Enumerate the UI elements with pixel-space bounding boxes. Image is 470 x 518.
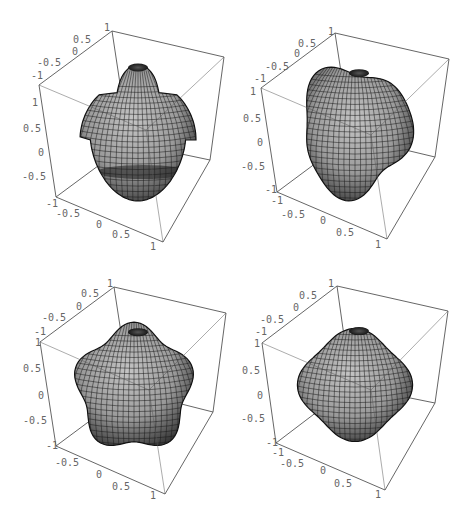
surface-1: [285, 60, 424, 201]
z-tick-label: 0: [38, 147, 44, 158]
top-tick-label: -0.5: [265, 61, 289, 72]
top-tick-label: 0: [76, 301, 82, 312]
bottom-tick-label: -0.5: [56, 208, 80, 219]
top-tick-label: 0: [293, 302, 299, 313]
z-tick-label: 0.5: [23, 123, 41, 134]
bottom-tick-label: 1: [375, 239, 381, 250]
top-tick-label: -0.5: [37, 57, 61, 68]
z-tick-label: 0.5: [242, 365, 260, 376]
z-tick-label: 0.5: [243, 113, 261, 124]
bottom-tick-label: -1: [271, 195, 283, 206]
z-tick-label: -0.5: [241, 413, 265, 424]
bottom-tick-label: 1: [150, 490, 156, 501]
z-tick-label: 1: [254, 338, 260, 349]
z-tick-label: -0.5: [23, 415, 47, 426]
surface-0: [68, 64, 207, 210]
top-tick-label: 0.5: [73, 34, 91, 45]
bottom-tick-label: 0.5: [112, 229, 130, 240]
bottom-tick-label: 0: [96, 219, 102, 230]
top-tick-label: 0.5: [298, 38, 316, 49]
bottom-tick-label: 0: [96, 469, 102, 480]
top-tick-label: 0.5: [299, 290, 317, 301]
top-tick-label: 1: [107, 278, 113, 289]
top-tick-label: 1: [328, 278, 334, 289]
top-dimple: [128, 64, 148, 72]
top-dimple: [349, 69, 369, 77]
bottom-tick-label: 0.5: [336, 227, 354, 238]
z-tick-label: 1: [35, 337, 41, 348]
bottom-tick-label: -1: [272, 447, 284, 458]
figure-grid: 10.50-0.5-110.50-0.5-1-0.500.51 10.50-0.…: [0, 0, 470, 518]
top-tick-label: -0.5: [42, 312, 66, 323]
top-tick-label: 1: [104, 22, 110, 33]
plot-bottom-right: 10.50-0.5-110.50-0.5-1-1-0.500.51: [241, 278, 448, 500]
bottom-tick-label: 1: [150, 241, 156, 252]
plot-top-left: 10.50-0.5-110.50-0.5-1-0.500.51: [22, 22, 224, 252]
top-tick-label: 0: [294, 48, 300, 59]
top-tick-label: 0.5: [81, 288, 99, 299]
surface-3: [289, 319, 421, 451]
bottom-tick-label: -0.5: [280, 458, 304, 469]
z-tick-label: 1: [250, 86, 256, 97]
top-tick-label: -0.5: [260, 314, 284, 325]
bottom-tick-label: 0.5: [334, 478, 352, 489]
top-tick-label: -1: [34, 326, 46, 337]
bottom-tick-label: 0: [320, 215, 326, 226]
top-tick-label: -1: [254, 73, 266, 84]
top-tick-label: 1: [328, 26, 334, 37]
z-tick-label: -1: [265, 184, 277, 195]
top-tick-label: -1: [255, 326, 267, 337]
plot-bottom-left: 10.50-0.5-110.50-0.5-1-0.500.51: [23, 278, 226, 501]
z-tick-label: -0.5: [22, 171, 46, 182]
z-tick-label: -0.5: [241, 161, 265, 172]
z-tick-label: 0.5: [23, 363, 41, 374]
bottom-tick-label: 1: [375, 489, 381, 500]
z-tick-label: 0: [38, 390, 44, 401]
top-dimple: [349, 327, 369, 335]
z-tick-label: 0: [257, 137, 263, 148]
z-tick-label: 1: [32, 97, 38, 108]
bottom-tick-label: 0.5: [112, 481, 130, 492]
surface-2: [66, 320, 203, 457]
bottom-tick-label: 0: [320, 465, 326, 476]
z-tick-label: 0: [257, 390, 263, 401]
top-dimple: [128, 328, 148, 336]
top-tick-label: 0: [72, 46, 78, 57]
surface-mesh: [289, 319, 421, 451]
z-tick-label: -1: [46, 440, 58, 451]
plot-top-right: 10.50-0.5-110.50-0.5-1-1-0.500.51: [241, 26, 449, 250]
bottom-tick-label: -0.5: [281, 209, 305, 220]
top-tick-label: -1: [31, 70, 43, 81]
bottom-tick-label: -0.5: [55, 457, 79, 468]
